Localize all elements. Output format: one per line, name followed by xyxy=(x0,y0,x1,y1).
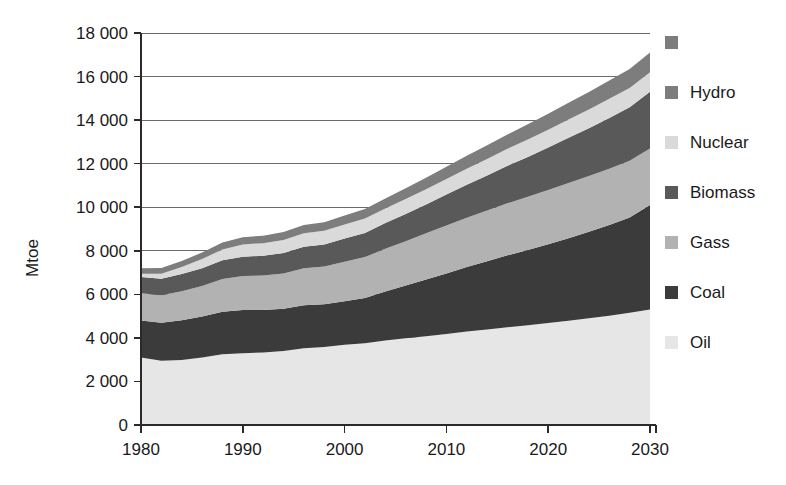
x-tick-label: 1980 xyxy=(122,440,160,459)
y-tick-label: 14 000 xyxy=(76,111,128,130)
legend-swatch xyxy=(665,336,678,349)
legend-swatch xyxy=(665,286,678,299)
y-tick-label: 2 000 xyxy=(85,372,128,391)
legend-nuclear: Nuclear xyxy=(665,133,749,152)
stacked-area-chart: 198019902000201020202030 02 0004 0006 00… xyxy=(0,0,786,485)
y-tick-label: 0 xyxy=(119,416,128,435)
x-tick-label: 2020 xyxy=(529,440,567,459)
legend-label: Hydro xyxy=(690,83,735,102)
y-tick-label: 16 000 xyxy=(76,68,128,87)
y-tick-label: 8 000 xyxy=(85,242,128,261)
x-tick-label: 2010 xyxy=(427,440,465,459)
x-tick-label: 1990 xyxy=(224,440,262,459)
legend-label: Nuclear xyxy=(690,133,749,152)
legend-label: Biomass xyxy=(690,183,755,202)
legend-label: Gass xyxy=(690,233,730,252)
chart-canvas: 198019902000201020202030 02 0004 0006 00… xyxy=(0,0,786,485)
y-tick-label: 6 000 xyxy=(85,285,128,304)
legend-unlabeled xyxy=(665,36,678,49)
x-tick-label: 2030 xyxy=(631,440,669,459)
legend-swatch xyxy=(665,86,678,99)
x-tick-label: 2000 xyxy=(326,440,364,459)
y-axis-tick-labels: 02 0004 0006 0008 00010 00012 00014 0001… xyxy=(76,24,128,435)
y-axis-title-text: Mtoe xyxy=(23,239,42,277)
legend: HydroNuclearBiomassGassCoalOil xyxy=(665,36,755,352)
legend-biomass: Biomass xyxy=(665,183,755,202)
legend-oil: Oil xyxy=(665,333,711,352)
y-tick-label: 12 000 xyxy=(76,155,128,174)
y-tick-label: 4 000 xyxy=(85,329,128,348)
legend-label: Coal xyxy=(690,283,725,302)
y-tick-label: 18 000 xyxy=(76,24,128,43)
legend-label: Oil xyxy=(690,333,711,352)
legend-swatch xyxy=(665,136,678,149)
y-tick-label: 10 000 xyxy=(76,198,128,217)
legend-swatch xyxy=(665,36,678,49)
x-axis-tick-labels: 198019902000201020202030 xyxy=(122,440,669,459)
legend-gass: Gass xyxy=(665,233,730,252)
legend-coal: Coal xyxy=(665,283,725,302)
legend-swatch xyxy=(665,186,678,199)
y-axis-title: Mtoe xyxy=(23,239,42,277)
area-bands xyxy=(141,53,650,425)
legend-hydro: Hydro xyxy=(665,83,735,102)
legend-swatch xyxy=(665,236,678,249)
